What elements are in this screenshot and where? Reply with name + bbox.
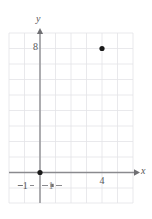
x-axis-label: x (141, 166, 145, 176)
x-tick-label-neg1: −1 (14, 181, 31, 191)
data-point (99, 46, 104, 51)
x-tick-label-1: 1 (44, 181, 58, 191)
y-axis-label: y (36, 14, 40, 24)
y-tick-label-8: 8 (29, 42, 38, 52)
origin-point (37, 170, 42, 175)
y-axis-arrow-icon (37, 28, 43, 34)
x-axis-arrow-icon (134, 169, 140, 175)
grid-lines (9, 33, 133, 203)
x-tick-label-4: 4 (95, 176, 109, 186)
